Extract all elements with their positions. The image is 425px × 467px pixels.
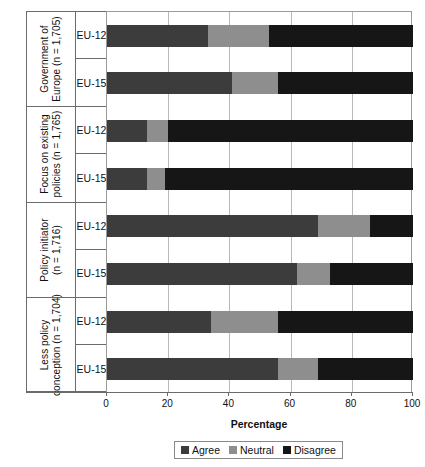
gridline-80 [352,12,353,392]
bar-segment-neutral [147,120,168,142]
bar-segment-neutral [297,263,331,285]
subcategory-label-eu-12: EU-12 [76,12,107,59]
category-group: Government ofEurope (n = 1,705)EU-12EU-1… [27,12,107,107]
subcategory-label-eu-15: EU-15 [76,345,107,393]
category-label-line1: Policy initiator [39,218,51,281]
bar-3 [107,120,413,142]
category-label-line1: Less policy [39,294,51,396]
x-tick-label-40: 40 [208,398,248,409]
x-axis-title: Percentage [106,418,412,430]
bar-segment-neutral [232,72,278,94]
bar-segment-disagree [165,168,413,190]
subcategory-label-eu-12: EU-12 [76,298,107,346]
bar-segment-agree [107,358,278,380]
stacked-bar-chart: Government ofEurope (n = 1,705)EU-12EU-1… [0,0,425,467]
bar-segment-disagree [318,358,413,380]
legend-label-disagree: Disagree [294,444,336,456]
subcategory-column: EU-12EU-15 [75,107,107,201]
bar-7 [107,311,413,333]
category-group: Policy initiator(n = 1,716)EU-12EU-15 [27,203,107,298]
category-label: Government ofEurope (n = 1,705) [27,12,75,106]
bar-6 [107,263,413,285]
subcategory-label-eu-15: EU-15 [76,59,107,106]
category-label-line2: policies (n = 1,765) [51,111,63,198]
gridline-20 [168,12,169,392]
bar-segment-agree [107,215,318,237]
x-tick-40 [228,392,229,396]
category-label-line2: conception (n = 1,704) [51,294,63,396]
bar-segment-agree [107,25,208,47]
legend-item-disagree: Disagree [283,444,336,456]
bar-segment-neutral [147,168,165,190]
gridline-60 [291,12,292,392]
category-group: Less policyconception (n = 1,704)EU-12EU… [27,298,107,393]
x-tick-60 [290,392,291,396]
bar-segment-disagree [269,25,413,47]
category-label-column: Government ofEurope (n = 1,705)EU-12EU-1… [26,11,106,392]
x-tick-0 [106,392,107,396]
legend-label-neutral: Neutral [240,444,274,456]
bar-segment-disagree [168,120,413,142]
bar-segment-agree [107,168,147,190]
subcategory-column: EU-12EU-15 [75,298,107,393]
bar-segment-agree [107,72,232,94]
bar-segment-neutral [211,311,278,333]
x-tick-label-20: 20 [147,398,187,409]
bar-segment-disagree [370,215,413,237]
category-label: Policy initiator(n = 1,716) [27,203,75,297]
legend-label-agree: Agree [192,444,220,456]
plot-area [106,11,412,392]
bar-segment-agree [107,311,211,333]
bar-segment-neutral [208,25,269,47]
x-tick-80 [351,392,352,396]
subcategory-label-eu-15: EU-15 [76,154,107,201]
x-tick-label-100: 100 [392,398,425,409]
legend-item-neutral: Neutral [229,444,274,456]
x-tick-100 [412,392,413,396]
category-label: Less policyconception (n = 1,704) [27,298,75,393]
subcategory-label-eu-15: EU-15 [76,250,107,297]
legend-swatch-neutral [229,446,237,454]
x-tick-label-80: 80 [331,398,371,409]
category-group: Focus on existingpolicies (n = 1,765)EU-… [27,107,107,202]
subcategory-column: EU-12EU-15 [75,12,107,106]
gridline-40 [229,12,230,392]
category-label: Focus on existingpolicies (n = 1,765) [27,107,75,201]
bar-segment-agree [107,263,297,285]
category-label-line1: Focus on existing [39,111,51,198]
category-label-line2: (n = 1,716) [51,218,63,281]
bar-segment-neutral [278,358,318,380]
x-axis-line [26,392,412,393]
subcategory-column: EU-12EU-15 [75,203,107,297]
legend-swatch-agree [181,446,189,454]
bar-4 [107,168,413,190]
bar-segment-neutral [318,215,370,237]
subcategory-label-eu-12: EU-12 [76,107,107,154]
x-tick-20 [167,392,168,396]
x-tick-label-60: 60 [270,398,310,409]
chart-legend: AgreeNeutralDisagree [174,441,343,459]
bar-5 [107,215,413,237]
category-label-line1: Government of [39,16,51,101]
subcategory-label-eu-12: EU-12 [76,203,107,250]
bar-segment-disagree [278,311,413,333]
legend-swatch-disagree [283,446,291,454]
bar-8 [107,358,413,380]
legend-item-agree: Agree [181,444,220,456]
bar-segment-disagree [330,263,413,285]
bar-segment-agree [107,120,147,142]
bar-segment-disagree [278,72,413,94]
bar-2 [107,72,413,94]
bar-1 [107,25,413,47]
category-label-line2: Europe (n = 1,705) [51,16,63,101]
x-tick-label-0: 0 [86,398,126,409]
